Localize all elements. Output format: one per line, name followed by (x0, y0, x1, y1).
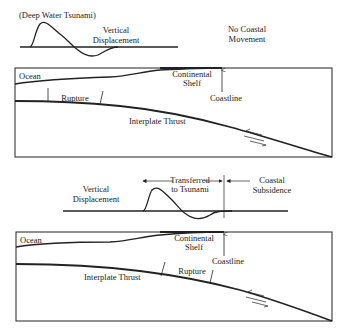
rupture-tick-right (100, 91, 103, 104)
ocean-label: Ocean (19, 71, 41, 81)
diagram-canvas: (Deep Water Tsunami) Vertical Displaceme… (0, 0, 345, 332)
coastline-label: Coastline (212, 256, 244, 266)
coastal-subsidence-label-1: Coastal (259, 175, 285, 185)
interplate-thrust-line (16, 264, 332, 321)
continental-shelf-label-2: Shelf (183, 78, 201, 88)
rupture-label: Rupture (61, 93, 89, 103)
slip-arrows-icon (244, 129, 266, 146)
vertical-displacement-label-1: Vertical (83, 184, 110, 194)
interplate-thrust-label: Interplate Thrust (129, 116, 186, 126)
vertical-displacement-label-1: Vertical (103, 25, 130, 35)
vertical-displacement-label-2: Displacement (73, 194, 120, 204)
interplate-thrust-line (15, 101, 332, 157)
continental-shelf-label-2: Shelf (185, 242, 203, 252)
coastline-label: Coastline (210, 93, 242, 103)
transferred-label-2: to Tsunami (171, 184, 209, 194)
tsunami-diagram: (Deep Water Tsunami) Vertical Displaceme… (0, 0, 345, 332)
slip-arrows-icon (246, 290, 268, 307)
deep-water-tsunami-label: (Deep Water Tsunami) (19, 10, 96, 20)
ocean-label: Ocean (20, 235, 42, 245)
vertical-displacement-label-2: Displacement (93, 35, 140, 45)
top-panel: (Deep Water Tsunami) Vertical Displaceme… (15, 10, 332, 157)
no-coastal-movement-label-2: Movement (229, 34, 266, 44)
coastal-subsidence-label-2: Subsidence (253, 185, 292, 195)
interplate-thrust-label: Interplate Thrust (84, 272, 141, 282)
no-coastal-movement-label-1: No Coastal (228, 24, 267, 34)
rupture-label: Rupture (178, 266, 206, 276)
bottom-panel: Vertical Displacement Transferred to Tsu… (16, 175, 332, 321)
